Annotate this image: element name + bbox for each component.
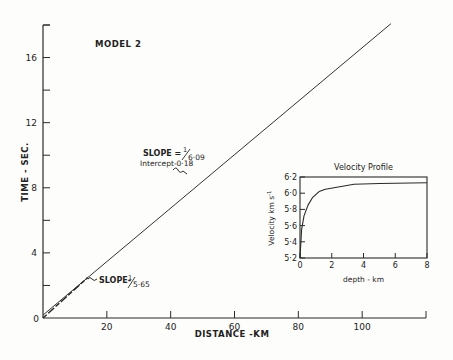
- inset-y-tick-label: 5·4: [284, 238, 297, 247]
- near-offset-line: [43, 278, 88, 318]
- inset-y-tick-label: 6·2: [284, 173, 297, 182]
- inset-x-tick-label: 0: [297, 261, 302, 270]
- intercept-annotation: Intercept-0·18: [140, 159, 194, 168]
- x-tick-label: 20: [101, 322, 113, 332]
- inset-title: Velocity Profile: [334, 163, 393, 172]
- svg-text:1: 1: [128, 274, 132, 282]
- x-tick-label: 40: [165, 322, 177, 332]
- inset-x-tick-label: 8: [424, 261, 429, 270]
- refraction-chart: 481216020406080100DISTANCE -KMTIME - SEC…: [0, 0, 453, 360]
- inset-y-tick-label: 6·0: [284, 189, 297, 198]
- x-axis-label: DISTANCE -KM: [195, 329, 270, 339]
- inset-x-label: depth - km: [343, 275, 384, 284]
- inset-y-tick-label: 5·8: [284, 205, 297, 214]
- inset-frame: [300, 177, 427, 258]
- svg-text:1: 1: [183, 146, 187, 154]
- inset-y-tick-label: 5·2: [284, 254, 297, 263]
- slope-annotation-1: SLOPE =: [143, 149, 181, 158]
- velocity-curve: [300, 183, 427, 258]
- chart-title: MODEL 2: [95, 39, 141, 49]
- annotation-squiggle-icon: [88, 278, 97, 281]
- x-tick-label: 100: [354, 322, 371, 332]
- inset-y-tick-label: 5·6: [284, 222, 297, 231]
- y-tick-label: 12: [26, 118, 37, 128]
- y-tick-label: 16: [26, 53, 38, 63]
- y-tick-label: 8: [31, 183, 37, 193]
- y-axis-label: TIME - SEC.: [20, 142, 30, 202]
- inset-x-tick-label: 2: [329, 261, 334, 270]
- inset-x-tick-label: 4: [361, 261, 366, 270]
- inset-y-label: Velocity km s-1: [266, 190, 276, 245]
- annotation-squiggle-icon: [173, 168, 187, 174]
- svg-text:5·65: 5·65: [133, 280, 150, 289]
- y-tick-label: 4: [31, 248, 37, 258]
- slope-annotation-2: SLOPE-: [99, 276, 131, 285]
- x-tick-label: 80: [293, 322, 305, 332]
- inset-x-tick-label: 6: [393, 261, 398, 270]
- svg-text:0: 0: [33, 314, 39, 324]
